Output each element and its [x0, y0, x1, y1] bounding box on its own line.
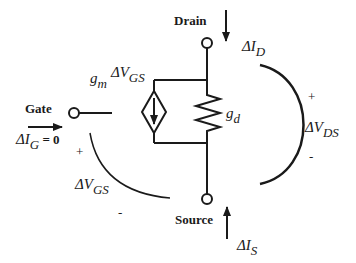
- vds-bracket: [260, 65, 304, 184]
- source-current-delta: ΔI: [237, 237, 251, 253]
- drain-current-sub: D: [256, 44, 265, 59]
- gm-sub: m: [98, 76, 107, 91]
- gm-delta-v-sub: GS: [129, 70, 145, 85]
- gate-current-label: ΔIG = 0: [16, 131, 60, 147]
- vds-label: ΔVDS: [305, 119, 339, 135]
- drain-terminal: [202, 38, 212, 48]
- circuit-diagram: Drain Gate Source ΔIG = 0 ΔID ΔIS gm ΔVG…: [0, 0, 356, 263]
- gd-symbol: g: [226, 105, 234, 121]
- vds-sub: DS: [323, 125, 339, 140]
- vgs-label: ΔVGS: [75, 176, 109, 192]
- gate-current-value: = 0: [39, 132, 59, 147]
- gate-terminal: [69, 108, 79, 118]
- vgs-delta: ΔV: [75, 176, 93, 192]
- drain-label: Drain: [174, 14, 207, 27]
- drain-current-label: ΔID: [242, 38, 265, 54]
- vds-plus: +: [308, 90, 315, 103]
- vds-minus: -: [309, 150, 313, 163]
- vgs-minus: -: [118, 206, 122, 219]
- gate-current-sub: G: [30, 137, 39, 152]
- gm-symbol: g: [90, 70, 98, 86]
- transconductance-label: gm ΔVGS: [90, 70, 145, 86]
- vgs-sub: GS: [93, 182, 109, 197]
- source-terminal: [202, 194, 212, 204]
- gd-sub: d: [234, 111, 241, 126]
- source-current-label: ΔIS: [237, 237, 257, 253]
- gate-label: Gate: [25, 102, 52, 115]
- vgs-plus: +: [76, 145, 83, 158]
- source-current-sub: S: [251, 243, 258, 258]
- gm-delta-v: ΔV: [111, 64, 129, 80]
- drain-current-delta: ΔI: [242, 38, 256, 54]
- gate-current-delta: ΔI: [16, 131, 30, 147]
- vds-delta: ΔV: [305, 119, 323, 135]
- source-label: Source: [175, 213, 213, 226]
- conductance-label: gd: [226, 105, 240, 121]
- resistor-icon: [196, 92, 220, 143]
